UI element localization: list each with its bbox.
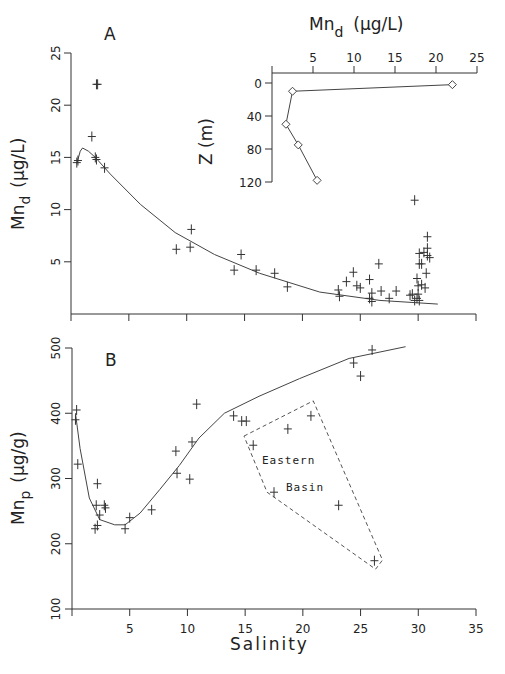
panel-b-y-tick-label: 200 bbox=[49, 532, 63, 555]
panel-a-data-point bbox=[335, 291, 343, 301]
panel-a-data-point bbox=[415, 248, 423, 258]
inset-y-title: Z (m) bbox=[196, 118, 216, 165]
panel-a-data-point bbox=[94, 79, 102, 89]
inset-data-point bbox=[313, 176, 321, 184]
panel-a-y-title: Mnd(μg/L) bbox=[8, 138, 33, 230]
eastern-basin-data-point bbox=[249, 440, 257, 450]
panel-b-data-point bbox=[357, 371, 365, 381]
panel-a-label: A bbox=[104, 24, 116, 44]
inset-x-title-unit: (μg/L) bbox=[353, 14, 403, 34]
panel-a-data-point bbox=[414, 281, 422, 291]
panel-b-data-point bbox=[74, 459, 82, 469]
eastern-basin-data-point bbox=[307, 411, 315, 421]
panel-a-y-tick-label: 15 bbox=[49, 150, 63, 165]
inset-data-point bbox=[289, 87, 297, 95]
panel-b-data-point bbox=[93, 479, 101, 489]
panel-b-data-point bbox=[242, 416, 250, 426]
panel-b-data-point bbox=[96, 510, 104, 520]
panel-a-data-point bbox=[356, 283, 364, 293]
panel-a-inset: 51015202504080120 Mnd(μg/L) Z (m) bbox=[196, 14, 485, 190]
panel-b-y-title-main: Mn bbox=[8, 500, 28, 525]
panel-a-data-point bbox=[413, 274, 421, 284]
inset-profile-line bbox=[286, 85, 452, 181]
panel-a-data-point bbox=[375, 259, 383, 269]
panel-a-data-point bbox=[88, 132, 96, 142]
panel-b-data-point bbox=[186, 474, 194, 484]
inset-x-tick-label: 15 bbox=[387, 51, 402, 65]
eastern-basin-data-point bbox=[270, 487, 278, 497]
panel-a-y-title-sub: d bbox=[17, 196, 33, 205]
panel-b-data-point bbox=[193, 399, 201, 409]
panel-b-label: B bbox=[105, 350, 117, 370]
inset-data-point bbox=[448, 81, 456, 89]
panel-a-y-tick-label: 20 bbox=[49, 98, 63, 113]
inset-data-point bbox=[282, 120, 290, 128]
panel-a: 510152025 A Mnd(μg/L) bbox=[8, 24, 476, 321]
panel-a-data-point bbox=[342, 277, 350, 287]
panel-a-data-point bbox=[237, 249, 245, 259]
panel-b-data-point bbox=[101, 503, 109, 513]
panel-b-data-point bbox=[126, 513, 134, 523]
annotation-eastern: Eastern bbox=[262, 454, 315, 467]
panel-b-y-title-sub: p bbox=[17, 491, 33, 500]
panel-b-y-tick-label: 100 bbox=[49, 598, 63, 621]
panel-b-x-tick-label: 5 bbox=[126, 622, 134, 636]
panel-b-y-tick-label: 400 bbox=[49, 402, 63, 425]
panel-b-data-point bbox=[230, 411, 238, 421]
panel-a-data-point bbox=[252, 265, 260, 275]
eastern-basin-data-point bbox=[370, 556, 378, 566]
panel-b-data-point bbox=[188, 437, 196, 447]
inset-x-title: Mnd(μg/L) bbox=[309, 14, 403, 40]
panel-a-data-point bbox=[74, 156, 82, 166]
inset-x-title-sub: d bbox=[334, 24, 343, 40]
inset-x-tick-label: 25 bbox=[469, 51, 484, 65]
panel-b-data-point bbox=[148, 505, 156, 515]
panel-a-data-point bbox=[73, 158, 81, 168]
panel-a-data-point bbox=[230, 265, 238, 275]
panel-a-data-point bbox=[366, 275, 374, 285]
inset-x-tick-label: 10 bbox=[346, 51, 361, 65]
panel-a-data-point bbox=[377, 286, 385, 296]
inset-x-tick-label: 5 bbox=[309, 51, 317, 65]
panel-b-data-point bbox=[100, 500, 108, 510]
svg-text:Mnp(μg/g): Mnp(μg/g) bbox=[8, 431, 33, 525]
panel-b-y-tick-label: 300 bbox=[49, 467, 63, 490]
panel-b-y-title: Mnp(μg/g) bbox=[8, 431, 33, 525]
panel-a-data-point bbox=[334, 285, 342, 295]
svg-text:Mnd(μg/L): Mnd(μg/L) bbox=[8, 138, 33, 230]
panel-a-y-title-main: Mn bbox=[8, 205, 28, 230]
eastern-basin-data-point bbox=[284, 424, 292, 434]
panel-b-data-point bbox=[92, 500, 100, 510]
panel-a-data-point bbox=[187, 224, 195, 234]
panel-a-data-point bbox=[411, 195, 419, 205]
annotation-basin: Basin bbox=[286, 481, 324, 494]
panel-a-data-point bbox=[392, 286, 400, 296]
panel-b-data-point bbox=[173, 468, 181, 478]
panel-a-data-point bbox=[186, 242, 194, 252]
panel-a-data-point bbox=[353, 281, 361, 291]
x-axis-title: Salinity bbox=[230, 634, 309, 654]
figure: 510152025 A Mnd(μg/L) 51015202504080120 … bbox=[0, 0, 505, 674]
panel-b-data-point bbox=[71, 415, 79, 425]
panel-a-y-title-unit: (μg/L) bbox=[8, 138, 28, 188]
inset-data-point bbox=[294, 141, 302, 149]
panel-b-x-tick-label: 25 bbox=[353, 622, 368, 636]
panel-a-y-tick-label: 5 bbox=[49, 258, 63, 266]
panel-b-data-point bbox=[350, 358, 358, 368]
panel-a-y-tick-label: 10 bbox=[49, 202, 63, 217]
panel-a-data-point bbox=[172, 244, 180, 254]
panel-b-data-point bbox=[73, 405, 81, 415]
eastern-basin-data-point bbox=[335, 500, 343, 510]
panel-a-fit-curve bbox=[77, 148, 438, 304]
inset-x-tick-label: 20 bbox=[428, 51, 443, 65]
panel-a-data-point bbox=[423, 232, 431, 242]
panel-a-data-point bbox=[283, 282, 291, 292]
panel-a-y-tick-label: 25 bbox=[49, 45, 63, 60]
panel-b-x-tick-label: 30 bbox=[411, 622, 426, 636]
inset-x-title-main: Mn bbox=[309, 14, 334, 34]
inset-y-tick-label: 120 bbox=[239, 176, 262, 190]
panel-a-data-point bbox=[422, 268, 430, 278]
inset-y-tick-label: 80 bbox=[247, 143, 262, 157]
inset-y-tick-label: 0 bbox=[254, 77, 262, 91]
panel-b-y-title-unit: (μg/g) bbox=[8, 431, 28, 482]
